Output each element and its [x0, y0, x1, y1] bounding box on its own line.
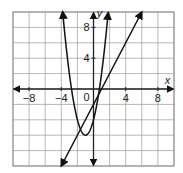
x-tick-label: −4 [55, 92, 68, 104]
graph-svg: −8−448480xy [0, 0, 183, 173]
x-tick-label: 8 [155, 92, 161, 104]
y-tick-label: 8 [83, 21, 89, 33]
coordinate-plane: −8−448480xy [0, 0, 183, 173]
x-tick-label: 4 [123, 92, 129, 104]
origin-label: 0 [83, 91, 89, 103]
x-axis-label: x [164, 74, 171, 86]
y-tick-label: 4 [83, 52, 89, 64]
x-tick-label: −8 [23, 92, 36, 104]
